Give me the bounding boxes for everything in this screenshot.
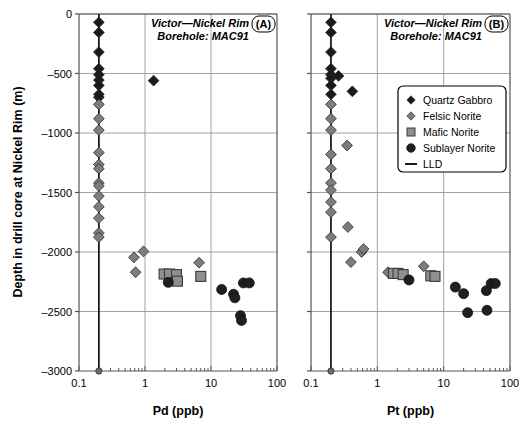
xtick-label-B-0: 0.1	[303, 377, 318, 389]
figure-svg: 0–500–1000–1500–2000–2500–30000.1110100P…	[0, 0, 530, 433]
ytick-label-4: –2000	[41, 246, 72, 258]
legend-label-3: Sublayer Norite	[423, 142, 496, 154]
data-point-circle	[217, 284, 227, 294]
legend-label-2: Mafic Norite	[423, 126, 479, 138]
ytick-label-1: –500	[48, 68, 72, 80]
xtick-label-B-3: 100	[501, 377, 519, 389]
ytick-label-0: 0	[66, 8, 72, 20]
data-point-circle	[450, 282, 460, 292]
panel-tag-B: (B)	[485, 16, 508, 32]
panel-tag-label-B: (B)	[489, 18, 505, 30]
data-point-square	[172, 276, 182, 286]
data-point-circle	[237, 315, 247, 325]
xtick-label-A-0: 0.1	[71, 377, 86, 389]
data-point-circle	[230, 293, 240, 303]
yaxis-title: Depth in drill core at Nickel Rim (m)	[11, 86, 25, 297]
panel-tag-A: (A)	[252, 16, 275, 32]
xaxis-title-A: Pd (ppb)	[153, 404, 204, 418]
legend-label-1: Felsic Norite	[423, 110, 482, 122]
data-point-square	[430, 271, 440, 281]
ytick-label-6: –3000	[41, 365, 72, 377]
panel-B: 0.1110100Pt (ppb)Victor—Nickel RimBoreho…	[303, 14, 519, 418]
xtick-label-B-1: 1	[374, 377, 380, 389]
xtick-label-B-2: 10	[438, 377, 450, 389]
data-point-circle	[244, 278, 254, 288]
data-point-circle	[459, 289, 469, 299]
xaxis-title-B: Pt (ppb)	[387, 404, 434, 418]
square-gray-icon	[407, 128, 415, 136]
figure-root: 0–500–1000–1500–2000–2500–30000.1110100P…	[0, 0, 530, 433]
ytick-label-5: –2500	[41, 306, 72, 318]
ytick-label-3: –1500	[41, 187, 72, 199]
panel-title-line2-A: Borehole: MAC91	[157, 30, 249, 42]
data-point-circle	[490, 279, 500, 289]
legend-label-4: LLD	[423, 158, 443, 170]
panel-A: 0–500–1000–1500–2000–2500–30000.1110100P…	[41, 8, 286, 418]
xtick-label-A-3: 100	[268, 377, 286, 389]
data-point-circle	[163, 277, 173, 287]
data-point-square	[196, 271, 206, 281]
legend: Quartz GabbroFelsic NoriteMafic NoriteSu…	[398, 86, 506, 172]
panel-title-line1-A: Victor—Nickel Rim	[151, 17, 249, 29]
xtick-label-A-1: 1	[142, 377, 148, 389]
data-point-circle	[404, 275, 414, 285]
data-point-circle	[482, 305, 492, 315]
panel-title-line2-B: Borehole: MAC91	[390, 30, 482, 42]
data-point-circle	[463, 308, 473, 318]
xtick-label-A-2: 10	[205, 377, 217, 389]
ytick-label-2: –1000	[41, 127, 72, 139]
panel-title-line1-B: Victor—Nickel Rim	[384, 17, 482, 29]
circle-dark-icon	[407, 144, 416, 153]
panel-tag-label-A: (A)	[256, 18, 272, 30]
legend-label-0: Quartz Gabbro	[423, 94, 493, 106]
